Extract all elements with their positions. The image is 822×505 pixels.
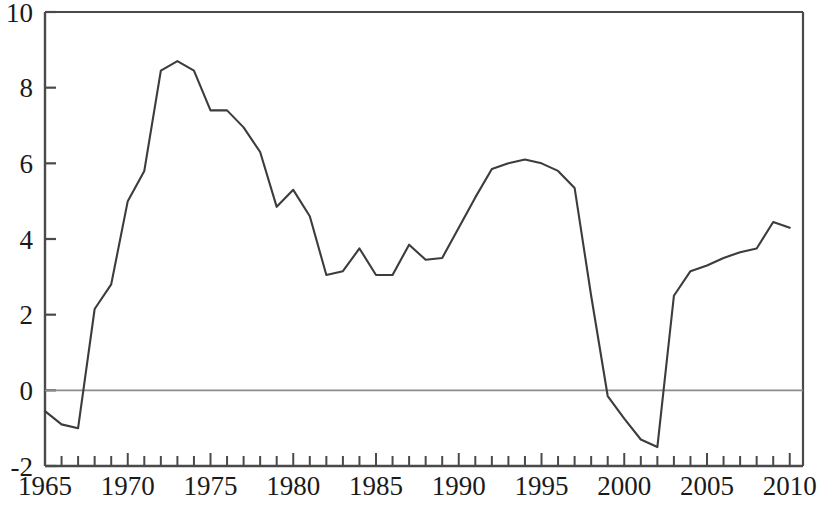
y-tick-label: 6 [20,149,34,179]
chart-canvas: -202468101965197019751980198519901995200… [0,0,822,505]
y-tick-label: 0 [20,376,34,406]
x-tick-label: 1975 [184,471,238,501]
x-tick-label: 1965 [18,471,72,501]
x-tick-label: 2000 [597,471,651,501]
line-chart: -202468101965197019751980198519901995200… [0,0,822,505]
x-tick-label: 1980 [266,471,320,501]
data-line-1 [45,61,790,447]
x-tick-label: 2010 [763,471,817,501]
x-tick-label: 2005 [680,471,734,501]
x-tick-label: 1985 [349,471,403,501]
x-tick-label: 1990 [432,471,486,501]
x-tick-label: 1995 [515,471,569,501]
y-tick-label: 10 [6,0,33,28]
x-axis-ticks [45,453,790,466]
x-axis-labels: 1965197019751980198519901995200020052010 [18,471,817,501]
y-axis-ticks: -20246810 [6,0,56,482]
x-tick-label: 1970 [101,471,155,501]
y-tick-label: 8 [20,73,34,103]
y-tick-label: 4 [20,225,34,255]
y-tick-label: 2 [20,300,34,330]
